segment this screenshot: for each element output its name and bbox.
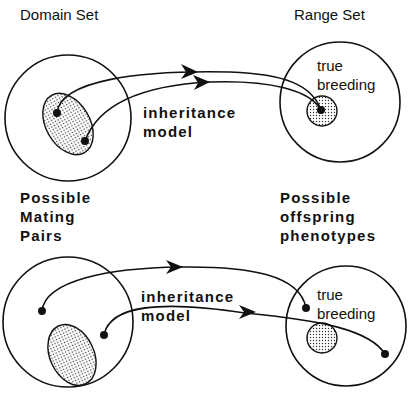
left-label-line-1: Possible (20, 188, 91, 207)
inheritance-model-label-top: inheritance model (143, 103, 236, 141)
range-set-title: Range Set (294, 5, 365, 24)
inheritance-word: inheritance (143, 103, 236, 122)
right-label-line-2: offspring (280, 207, 376, 226)
domain-set-title: Domain Set (20, 5, 98, 24)
left-label-line-2: Mating (20, 207, 91, 226)
right-label-line-1: Possible (280, 188, 376, 207)
range-set-circle-bottom (286, 266, 406, 386)
breeding-word: breeding (317, 304, 375, 323)
right-label-line-3: phenotypes (280, 226, 376, 245)
inheritance-model-label-bottom: inheritance model (141, 287, 234, 325)
left-label-line-3: Pairs (20, 226, 91, 245)
true-breeding-label-bottom: true breeding (317, 285, 375, 323)
model-word: model (141, 306, 234, 325)
true-breeding-label-top: true breeding (317, 56, 375, 94)
true-word: true (317, 56, 375, 75)
possible-offspring-phenotypes-label: Possible offspring phenotypes (280, 188, 376, 245)
true-breeding-region-bottom (307, 323, 337, 353)
inheritance-word: inheritance (141, 287, 234, 306)
true-word: true (317, 285, 375, 304)
possible-mating-pairs-label: Possible Mating Pairs (20, 188, 91, 245)
breeding-word: breeding (317, 75, 375, 94)
model-word: model (143, 122, 236, 141)
